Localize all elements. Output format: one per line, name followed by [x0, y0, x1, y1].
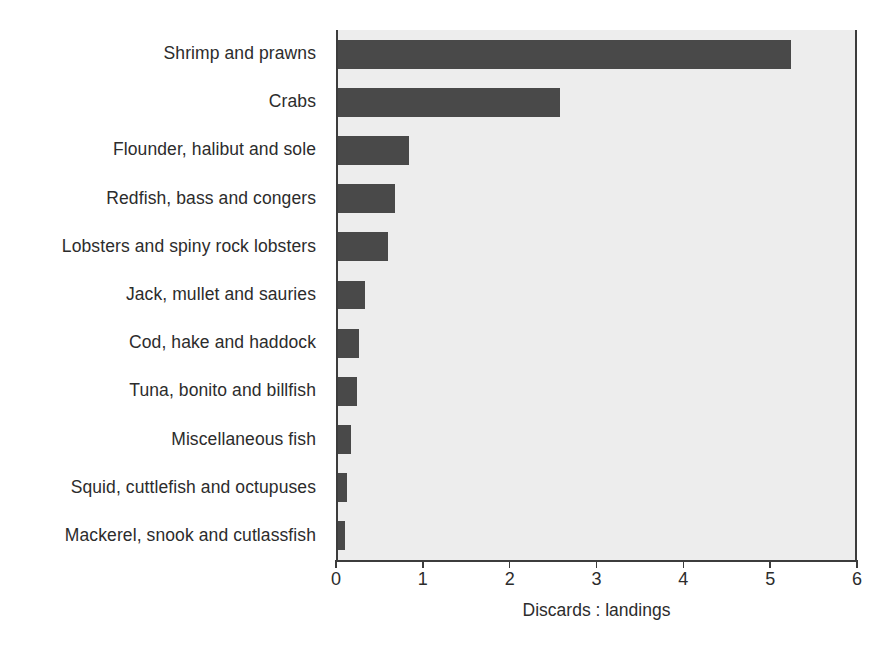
- category-label: Tuna, bonito and billfish: [129, 382, 316, 400]
- bar: [336, 136, 409, 165]
- x-tick: [422, 560, 424, 568]
- bar-chart-figure: Shrimp and prawnsCrabsFlounder, halibut …: [0, 0, 891, 656]
- bar: [336, 281, 365, 310]
- bar: [336, 184, 395, 213]
- bar: [336, 88, 560, 117]
- category-label: Jack, mullet and sauries: [126, 286, 316, 304]
- category-label: Miscellaneous fish: [171, 431, 316, 449]
- bar: [336, 232, 388, 261]
- x-tick-label: 5: [750, 569, 790, 590]
- category-label: Flounder, halibut and sole: [113, 141, 316, 159]
- category-label: Cod, hake and haddock: [129, 334, 316, 352]
- x-tick: [335, 560, 337, 568]
- y-axis-line: [336, 30, 338, 560]
- category-label: Crabs: [269, 93, 316, 111]
- x-tick: [683, 560, 685, 568]
- x-axis-title: Discards : landings: [336, 600, 857, 621]
- x-tick-label: 0: [316, 569, 356, 590]
- plot-area: [336, 30, 857, 560]
- category-label: Shrimp and prawns: [164, 45, 316, 63]
- bar: [336, 329, 359, 358]
- x-tick-label: 2: [490, 569, 530, 590]
- bar: [336, 377, 357, 406]
- x-tick-label: 3: [577, 569, 617, 590]
- bar: [336, 473, 347, 502]
- x-tick-label: 1: [403, 569, 443, 590]
- category-axis-labels: Shrimp and prawnsCrabsFlounder, halibut …: [0, 32, 326, 560]
- category-label: Squid, cuttlefish and octupuses: [71, 479, 316, 497]
- x-tick: [769, 560, 771, 568]
- x-tick-label: 4: [663, 569, 703, 590]
- x-tick: [509, 560, 511, 568]
- category-label: Redfish, bass and congers: [106, 190, 316, 208]
- bar: [336, 40, 791, 69]
- category-label: Mackerel, snook and cutlassfish: [65, 527, 316, 545]
- x-tick: [856, 560, 858, 568]
- x-tick-label: 6: [837, 569, 877, 590]
- category-label: Lobsters and spiny rock lobsters: [62, 238, 316, 256]
- bar: [336, 425, 351, 454]
- x-tick: [596, 560, 598, 568]
- plot-right-border: [855, 30, 857, 560]
